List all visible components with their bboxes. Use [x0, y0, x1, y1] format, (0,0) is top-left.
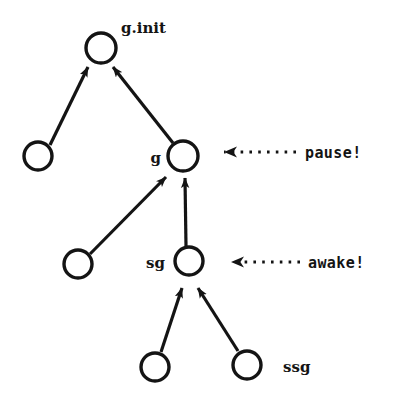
messages-layer: pause!awake!	[224, 144, 365, 272]
node-sg	[175, 247, 203, 275]
edge-left-upper-to-g-init	[50, 67, 88, 145]
message-awake: awake!	[231, 254, 365, 272]
node-ssg-label: ssg	[283, 358, 311, 376]
node-g-init	[86, 33, 116, 63]
edge-left-lower-to-g	[90, 177, 166, 254]
message-pause: pause!	[224, 144, 362, 162]
edge-sg-to-g	[185, 178, 186, 246]
message-pause-label: pause!	[305, 144, 362, 162]
diagram-canvas: pause!awake! g.initgsgssg	[0, 0, 393, 403]
node-ssg	[233, 351, 261, 379]
edge-bottom-left-to-sg	[161, 288, 182, 352]
node-g	[168, 141, 198, 171]
edge-ssg-to-sg	[198, 288, 238, 351]
node-g-init-label: g.init	[121, 19, 166, 37]
message-awake-label: awake!	[308, 254, 365, 272]
graph-svg: pause!awake! g.initgsgssg	[0, 0, 393, 403]
node-unlabeled-left-lower	[64, 250, 92, 278]
edges-layer	[50, 67, 238, 352]
node-unlabeled-left-upper	[24, 142, 52, 170]
edge-g-to-g-init	[113, 67, 173, 143]
node-g-label: g	[151, 149, 162, 167]
node-sg-label: sg	[146, 254, 165, 272]
labels-layer: g.initgsgssg	[121, 19, 311, 376]
node-unlabeled-bottom-left	[141, 353, 169, 381]
